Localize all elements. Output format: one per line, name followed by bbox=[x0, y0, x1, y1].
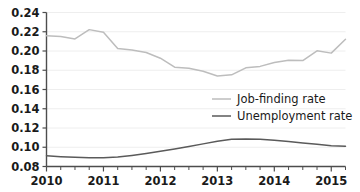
y-tick-label: 0.24 bbox=[11, 6, 39, 20]
y-tick-label: 0.08 bbox=[11, 160, 39, 174]
line-chart: 0.080.100.120.140.160.180.200.220.24 201… bbox=[0, 0, 360, 192]
y-tick-label: 0.16 bbox=[11, 83, 39, 97]
x-tick-label: 2013 bbox=[201, 174, 233, 188]
x-tick-label: 2010 bbox=[30, 174, 62, 188]
chart-canvas: 0.080.100.120.140.160.180.200.220.24 201… bbox=[0, 0, 360, 192]
x-tick-label: 2011 bbox=[87, 174, 119, 188]
y-tick-label: 0.14 bbox=[11, 102, 39, 116]
y-tick-label: 0.20 bbox=[11, 44, 39, 58]
y-tick-label: 0.12 bbox=[11, 121, 39, 135]
y-tick-label: 0.22 bbox=[11, 25, 39, 39]
legend-label: Job-finding rate bbox=[236, 92, 326, 106]
y-tick-label: 0.10 bbox=[11, 140, 39, 154]
legend-label: Unemployment rate bbox=[237, 109, 352, 123]
x-tick-label: 2015 bbox=[315, 174, 347, 188]
x-tick-label: 2012 bbox=[144, 174, 176, 188]
y-tick-label: 0.18 bbox=[11, 63, 39, 77]
x-tick-label: 2014 bbox=[258, 174, 290, 188]
